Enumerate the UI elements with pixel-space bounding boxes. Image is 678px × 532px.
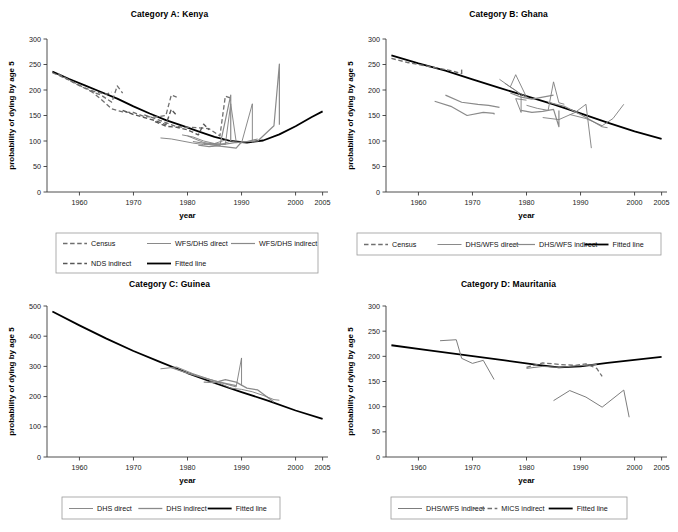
series-line (435, 101, 494, 115)
y-tick-label: 200 (368, 86, 380, 95)
chart-panel-c: Category C: Guinea0100200300400500196019… (0, 280, 339, 532)
x-tick-label: 1980 (519, 463, 535, 472)
legend-label: Fitted line (236, 504, 267, 513)
x-tick-label: 1960 (71, 463, 87, 472)
x-axis-title: year (518, 211, 534, 220)
y-tick-label: 250 (368, 327, 380, 336)
y-tick-label: 0 (37, 188, 41, 197)
series-line (52, 311, 322, 419)
x-tick-label: 1990 (573, 198, 589, 207)
x-tick-label: 1960 (71, 198, 87, 207)
y-tick-label: 0 (37, 453, 41, 462)
y-tick-label: 400 (29, 332, 41, 341)
y-tick-label: 100 (368, 402, 380, 411)
legend-label: Fitted line (577, 504, 608, 513)
legend-label: MICS indirect (501, 504, 544, 513)
x-tick-label: 1970 (125, 463, 141, 472)
x-tick-label: 1990 (573, 463, 589, 472)
legend-label: Census (91, 239, 116, 248)
chart-svg-panel-b: Category B: Ghana05010015020025030019601… (339, 0, 678, 280)
chart-title: Category D: Mauritania (461, 280, 556, 289)
x-axis-title: year (518, 476, 534, 485)
y-tick-label: 250 (29, 60, 41, 69)
y-axis-title: probability of dying by age 5 (7, 61, 16, 170)
x-tick-label: 1970 (125, 198, 141, 207)
legend-label: WFS/DHS direct (175, 239, 228, 248)
y-tick-label: 200 (29, 392, 41, 401)
x-tick-label: 2000 (627, 198, 643, 207)
x-tick-label: 1970 (464, 198, 480, 207)
series-line (171, 368, 236, 386)
series-line (391, 58, 461, 73)
series-line (160, 358, 241, 387)
series-line (90, 91, 176, 118)
chart-title: Category B: Ghana (469, 9, 548, 19)
legend-label: DHS indirect (166, 504, 206, 513)
x-tick-label: 1990 (234, 198, 250, 207)
series-line (570, 104, 624, 125)
legend-label: Fitted line (175, 259, 206, 268)
chart-panel-a: Category A: Kenya05010015020025030019601… (0, 0, 339, 280)
y-tick-label: 500 (29, 302, 41, 311)
series-line (554, 390, 630, 417)
series-line (521, 109, 559, 126)
series-line (445, 95, 499, 107)
series-line (204, 64, 280, 148)
y-tick-label: 300 (368, 35, 380, 44)
y-axis-title: probability of dying by age 5 (7, 327, 16, 436)
series-line (391, 345, 661, 367)
x-tick-label: 2000 (288, 463, 304, 472)
chart-title: Category C: Guinea (129, 280, 210, 289)
x-tick-label: 2005 (654, 463, 670, 472)
y-tick-label: 100 (29, 422, 41, 431)
x-tick-label: 1980 (180, 198, 196, 207)
y-tick-label: 300 (29, 362, 41, 371)
x-tick-label: 1960 (410, 198, 426, 207)
x-tick-label: 1980 (180, 463, 196, 472)
y-tick-label: 300 (29, 35, 41, 44)
chart-title: Category A: Kenya (131, 9, 209, 19)
y-tick-label: 0 (376, 188, 380, 197)
x-tick-label: 2005 (654, 198, 670, 207)
chart-panel-d: Category D: Mauritania050100150200250300… (339, 280, 678, 532)
legend-label: WFS/DHS indirect (259, 239, 317, 248)
y-tick-label: 150 (29, 111, 41, 120)
y-tick-label: 150 (368, 377, 380, 386)
legend-label: DHS/WFS direct (466, 240, 519, 249)
x-tick-label: 1980 (519, 198, 535, 207)
y-axis-title: probability of dying by age 5 (346, 61, 355, 170)
legend-label: Fitted line (613, 240, 644, 249)
y-tick-label: 250 (368, 60, 380, 69)
y-tick-label: 100 (29, 137, 41, 146)
series-line (440, 340, 494, 380)
x-axis-title: year (179, 476, 195, 485)
x-tick-label: 2005 (315, 463, 331, 472)
y-tick-label: 300 (368, 302, 380, 311)
y-tick-label: 150 (368, 111, 380, 120)
x-tick-label: 1970 (464, 463, 480, 472)
series-line (543, 104, 592, 148)
legend-label: DHS direct (97, 504, 132, 513)
y-tick-label: 50 (372, 427, 380, 436)
legend-label: NDS indirect (91, 259, 131, 268)
series-line (52, 72, 322, 143)
x-axis-title: year (179, 211, 195, 220)
y-tick-label: 200 (29, 86, 41, 95)
chart-panel-b: Category B: Ghana05010015020025030019601… (339, 0, 678, 280)
legend-label: Census (392, 240, 417, 249)
x-tick-label: 1960 (410, 463, 426, 472)
x-tick-label: 1990 (234, 463, 250, 472)
chart-svg-panel-c: Category C: Guinea0100200300400500196019… (0, 280, 339, 532)
y-tick-label: 100 (368, 137, 380, 146)
y-tick-label: 50 (372, 162, 380, 171)
y-tick-label: 50 (33, 162, 41, 171)
chart-svg-panel-a: Category A: Kenya05010015020025030019601… (0, 0, 339, 280)
x-tick-label: 2000 (627, 463, 643, 472)
y-tick-label: 200 (368, 352, 380, 361)
figure-grid: Category A: Kenya05010015020025030019601… (0, 0, 678, 532)
chart-svg-panel-d: Category D: Mauritania050100150200250300… (339, 280, 678, 532)
y-tick-label: 0 (376, 453, 380, 462)
x-tick-label: 2000 (288, 198, 304, 207)
y-axis-title: probability of dying by age 5 (346, 327, 355, 436)
x-tick-label: 2005 (315, 198, 331, 207)
